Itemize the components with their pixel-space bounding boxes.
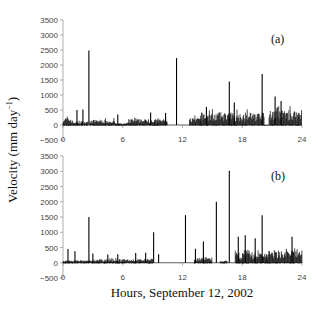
panel-a-label: (a): [271, 32, 284, 46]
y-axis-label-text: Velocity (mm day: [5, 109, 20, 203]
y-tick-label: 3500: [40, 16, 58, 25]
x-tick-label: 24: [298, 135, 307, 144]
y-tick-label: 500: [45, 106, 59, 115]
y-tick-label: 0: [54, 259, 59, 268]
svg-text:Velocity (mm day−1): Velocity (mm day−1): [5, 97, 20, 203]
y-tick-label: 3500: [40, 152, 58, 161]
y-axis-label: Velocity (mm day−1): [5, 97, 20, 203]
y-tick-label: 2500: [40, 183, 58, 192]
panel-b: −500050010001500200025003000350006121824: [40, 152, 307, 283]
x-tick-label: 24: [298, 273, 307, 282]
x-tick-label: 12: [178, 135, 187, 144]
panel-a: −500050010001500200025003000350006121824: [40, 16, 307, 145]
y-tick-label: −500: [40, 274, 59, 283]
x-tick-label: 18: [238, 135, 247, 144]
y-tick-label: −500: [40, 136, 59, 145]
x-tick-label: 0: [61, 135, 66, 144]
y-tick-label: 3000: [40, 31, 58, 40]
x-tick-label: 0: [61, 273, 66, 282]
y-tick-label: 1000: [40, 91, 58, 100]
y-tick-label: 0: [54, 121, 59, 130]
y-tick-label: 2000: [40, 61, 58, 70]
x-tick-label: 6: [121, 135, 126, 144]
panel-b-label: (b): [271, 169, 285, 183]
velocity-figure: −500050010001500200025003000350006121824…: [0, 0, 318, 312]
velocity-series-noise: [63, 248, 302, 263]
x-axis-label: Hours, September 12, 2002: [111, 285, 254, 300]
velocity-series-noise: [63, 106, 302, 126]
y-tick-label: 500: [45, 244, 59, 253]
y-tick-label: 2000: [40, 198, 58, 207]
y-tick-label: 1000: [40, 228, 58, 237]
x-tick-label: 18: [238, 273, 247, 282]
y-tick-label: 1500: [40, 76, 58, 85]
chart-canvas: −500050010001500200025003000350006121824…: [0, 0, 318, 312]
y-tick-label: 2500: [40, 46, 58, 55]
y-axis-label-exponent: −1: [5, 101, 14, 110]
x-tick-label: 6: [121, 273, 126, 282]
x-tick-label: 12: [178, 273, 187, 282]
y-tick-label: 1500: [40, 213, 58, 222]
y-axis-label-close: ): [5, 97, 20, 101]
y-tick-label: 3000: [40, 167, 58, 176]
